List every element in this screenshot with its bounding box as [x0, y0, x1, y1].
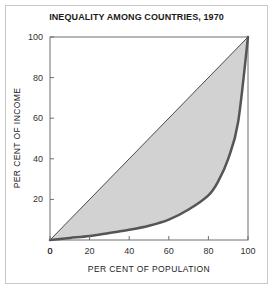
y-tick-label: 80 — [33, 73, 43, 83]
x-tick-label: 100 — [240, 246, 255, 256]
x-tick-label: 60 — [164, 246, 174, 256]
x-tick-label: 40 — [124, 246, 134, 256]
plot-area: 020406080100 020406080100 PER CENT OF PO… — [0, 0, 273, 290]
y-tick-label: 100 — [28, 32, 43, 42]
y-tick-label: 60 — [33, 113, 43, 123]
x-axis-title: PER CENT OF POPULATION — [88, 264, 210, 274]
x-tick-label: 20 — [85, 246, 95, 256]
y-tick-label: 0 — [47, 246, 52, 256]
y-axis-tick-labels: 020406080100 — [28, 32, 53, 256]
chart-figure: INEQUALITY AMONG COUNTRIES, 1970 0204060… — [0, 0, 273, 290]
y-tick-label: 40 — [33, 154, 43, 164]
x-axis-tick-labels: 020406080100 — [47, 246, 255, 256]
x-tick-label: 80 — [203, 246, 213, 256]
y-tick-label: 20 — [33, 194, 43, 204]
y-axis-title: PER CENT OF INCOME — [12, 88, 22, 189]
